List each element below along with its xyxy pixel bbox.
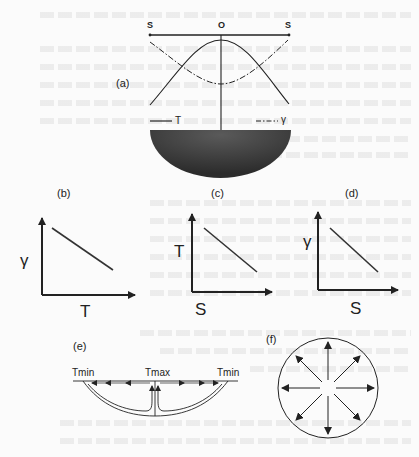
legend-label-surface-tension: γ bbox=[281, 114, 286, 125]
temperature-curve bbox=[150, 40, 289, 105]
panel-label-d: (d) bbox=[345, 187, 358, 199]
x-axis-label-d: S bbox=[350, 299, 361, 319]
panel-a bbox=[149, 34, 291, 178]
label-tmin-left: Tmin bbox=[72, 367, 94, 378]
label-tmax: Tmax bbox=[145, 367, 170, 378]
axis-label-s-right: S bbox=[285, 20, 291, 30]
panel-label-b: (b) bbox=[57, 187, 70, 199]
gamma-vs-S-line bbox=[330, 228, 378, 272]
gamma-vs-T-line bbox=[52, 228, 113, 270]
y-axis-label-d: γ bbox=[303, 232, 312, 252]
axis-label-s-left: S bbox=[147, 20, 153, 30]
panel-label-c: (c) bbox=[211, 187, 224, 199]
figure-canvas bbox=[0, 0, 419, 457]
panel-e bbox=[73, 378, 238, 416]
panel-c bbox=[192, 214, 272, 292]
panel-d bbox=[318, 212, 398, 290]
panel-label-a: (a) bbox=[116, 77, 129, 89]
panel-label-e: (e) bbox=[73, 340, 86, 352]
y-axis-label-c: T bbox=[174, 242, 184, 262]
surface-tension-curve bbox=[150, 40, 288, 84]
axis-label-origin: O bbox=[218, 20, 225, 30]
legend-label-temperature: T bbox=[175, 115, 181, 126]
x-axis-label-c: S bbox=[195, 300, 206, 320]
panel-f bbox=[278, 338, 378, 438]
x-axis-label-b: T bbox=[80, 302, 90, 322]
panel-label-f: (f) bbox=[266, 333, 276, 345]
melt-pool-shape bbox=[150, 130, 291, 178]
label-tmin-right: Tmin bbox=[217, 367, 239, 378]
y-axis-label-b: γ bbox=[20, 251, 29, 271]
panel-b bbox=[42, 218, 135, 295]
T-vs-S-line bbox=[204, 228, 257, 272]
